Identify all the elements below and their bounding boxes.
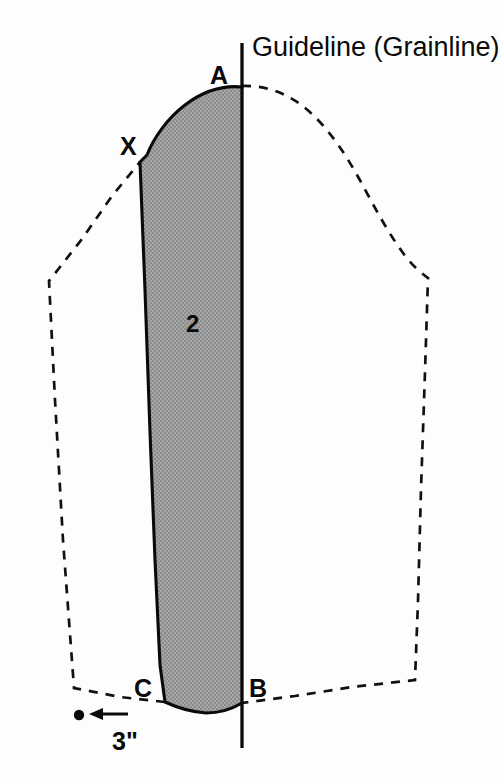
dot-marker-icon [74,710,84,720]
dimension-label-3in: 3" [112,727,138,755]
pattern-diagram-canvas: Guideline (Grainline) A X 2 C B 3" [0,0,502,778]
point-label-a: A [210,61,228,89]
piece-number-label: 2 [186,310,199,337]
point-label-x: X [120,132,137,160]
point-label-b: B [249,674,267,702]
diagram-background [0,0,502,778]
point-label-c: C [134,674,152,702]
guideline-title-label: Guideline (Grainline) [252,32,500,62]
pattern-diagram-svg: Guideline (Grainline) A X 2 C B 3" [0,0,502,778]
